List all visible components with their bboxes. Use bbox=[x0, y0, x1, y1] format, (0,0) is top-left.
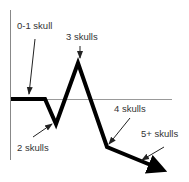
arrow-0-1-skull bbox=[29, 39, 35, 94]
label-4-skulls: 4 skulls bbox=[114, 104, 146, 114]
arrow-2-skulls bbox=[33, 124, 52, 137]
arrow-5-plus-skulls bbox=[142, 147, 164, 160]
label-0-1-skull: 0-1 skull bbox=[17, 21, 52, 31]
arrow-4-skulls bbox=[109, 118, 130, 144]
label-2-skulls: 2 skulls bbox=[17, 143, 49, 153]
label-3-skulls: 3 skulls bbox=[66, 32, 98, 42]
label-5-plus-skulls: 5+ skulls bbox=[141, 129, 178, 139]
